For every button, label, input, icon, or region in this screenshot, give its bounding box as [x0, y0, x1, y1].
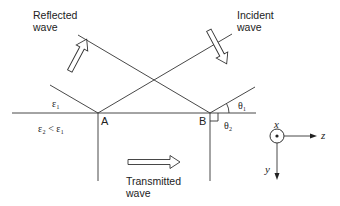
- theta2-label: θ₂: [224, 120, 232, 131]
- incident-wave-arrow-icon: [203, 27, 232, 67]
- theta1-arc: [227, 104, 230, 114]
- x-axis-label: x: [274, 118, 279, 130]
- right-angle-mark: [210, 113, 218, 121]
- transmitted-wave-arrow-icon: [128, 156, 180, 169]
- diagram-stage: Reflected wave Incident wave Transmitted…: [0, 0, 340, 206]
- y-axis-arrow-icon: [275, 173, 280, 180]
- y-axis-label: y: [265, 163, 270, 175]
- wavefront-line-4: [210, 87, 255, 113]
- theta1-label: θ₁: [238, 100, 246, 111]
- medium1-label: ε₁: [52, 98, 60, 109]
- z-axis-arrow-icon: [310, 134, 317, 139]
- incident-wave-label: Incident wave: [237, 9, 274, 33]
- wavefront-line-1: [78, 35, 210, 113]
- point-a-label: A: [101, 115, 108, 127]
- z-axis-label: z: [321, 129, 325, 141]
- coordinate-axes: [270, 129, 317, 180]
- wavefront-line-3: [98, 34, 232, 113]
- reflected-wave-label: Reflected wave: [33, 9, 77, 33]
- reflected-wave-arrow-icon: [64, 36, 92, 74]
- transmitted-wave-label: Transmitted wave: [126, 175, 181, 199]
- medium2-label: ε₂ < ε₁: [38, 123, 64, 134]
- point-b-label: B: [199, 115, 206, 127]
